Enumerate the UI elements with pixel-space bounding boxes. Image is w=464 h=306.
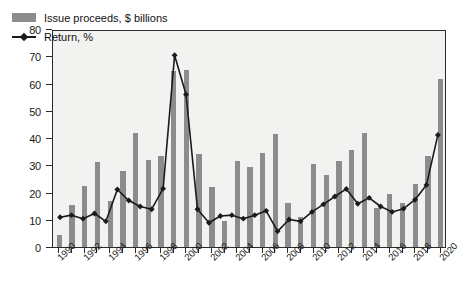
return-line-marker <box>229 212 235 218</box>
x-axis: 1990199219941996199820002002200420062008… <box>52 248 446 306</box>
legend-item-return: Return, % <box>12 28 168 45</box>
line-marker-icon <box>12 32 36 41</box>
y-axis-tick-label: 60 <box>3 77 41 93</box>
return-line-marker <box>57 214 63 220</box>
y-axis: 01020304050607080 <box>0 30 52 248</box>
return-line-marker <box>435 132 441 138</box>
y-axis-tick-label: 30 <box>3 158 41 174</box>
legend-label-issue-proceeds: Issue proceeds, $ billions <box>44 12 168 24</box>
return-line-marker <box>137 204 143 210</box>
return-line-marker <box>80 216 86 222</box>
y-axis-tick-label: 20 <box>3 186 41 202</box>
legend-item-issue-proceeds: Issue proceeds, $ billions <box>12 9 168 26</box>
y-axis-tick-label: 70 <box>3 49 41 65</box>
y-axis-tick-label: 10 <box>3 213 41 229</box>
plot-area <box>52 30 446 248</box>
return-line-marker <box>69 212 75 218</box>
return-line-marker <box>252 212 258 218</box>
return-line-marker <box>389 209 395 215</box>
y-axis-tick-label: 50 <box>3 104 41 120</box>
return-line-marker <box>160 186 166 192</box>
return-line-marker <box>183 92 189 98</box>
legend-label-return: Return, % <box>44 31 93 43</box>
y-axis-tick-label: 40 <box>3 131 41 147</box>
return-line-marker <box>149 206 155 212</box>
return-line-marker <box>240 216 246 222</box>
chart-legend: Issue proceeds, $ billions Return, % <box>12 9 168 47</box>
return-line-marker <box>263 208 269 214</box>
return-line-series <box>53 31 445 247</box>
bar-swatch-icon <box>12 13 36 22</box>
y-axis-tick-label: 0 <box>3 240 41 256</box>
return-line-marker <box>172 52 178 58</box>
chart-figure: 01020304050607080 1990199219941996199820… <box>0 0 464 306</box>
